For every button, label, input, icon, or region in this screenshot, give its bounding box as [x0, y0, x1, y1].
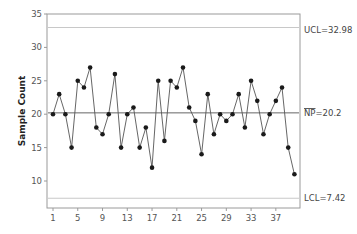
np-label-value: =20.2 [315, 108, 341, 118]
y-axis: 101520253035 [31, 9, 47, 186]
x-tick-label: 29 [221, 213, 232, 223]
np-label-symbol: NP [304, 108, 315, 118]
x-tick-label: 17 [147, 213, 158, 223]
ucl-label: UCL=32.98 [304, 25, 352, 35]
y-axis-label: Sample Count [17, 75, 27, 146]
data-point [181, 65, 186, 70]
x-tick-label: 25 [196, 213, 207, 223]
y-tick-label: 30 [31, 42, 42, 52]
data-point [63, 112, 68, 117]
lcl-label: LCL=7.42 [304, 193, 345, 203]
x-tick-label: 5 [75, 213, 80, 223]
data-point [292, 172, 297, 177]
np-control-chart: 101520253035 15913172125293337 Sample Co… [0, 0, 357, 234]
data-point [243, 125, 248, 130]
x-tick-label: 9 [100, 213, 105, 223]
data-point [193, 119, 198, 124]
x-axis: 15913172125293337 [50, 208, 281, 223]
np-bar-label: NP=20.2 [304, 108, 342, 118]
data-point [255, 99, 260, 104]
data-point [75, 79, 80, 84]
data-point [212, 132, 217, 137]
data-point [236, 92, 241, 97]
data-point [274, 99, 279, 104]
data-point [82, 85, 87, 90]
data-point [218, 112, 223, 117]
y-tick-label: 10 [31, 176, 42, 186]
plot-frame [47, 14, 300, 208]
data-point [57, 92, 62, 97]
x-tick-label: 33 [246, 213, 257, 223]
data-point [175, 85, 180, 90]
data-point [69, 145, 74, 150]
data-point [106, 112, 111, 117]
data-point [261, 132, 266, 137]
data-point [137, 145, 142, 150]
data-point [88, 65, 93, 70]
data-point [125, 112, 130, 117]
x-tick-label: 1 [50, 213, 55, 223]
data-point [286, 145, 291, 150]
data-point [267, 112, 272, 117]
data-point [280, 85, 285, 90]
data-point [94, 125, 99, 130]
data-point [113, 72, 118, 77]
data-point [230, 112, 235, 117]
data-point [156, 79, 161, 84]
data-point [100, 132, 105, 137]
data-point [224, 119, 229, 124]
data-point [144, 125, 149, 130]
data-point [249, 79, 254, 84]
y-tick-label: 20 [31, 109, 42, 119]
data-point [168, 79, 173, 84]
data-point [199, 152, 204, 157]
data-point [162, 139, 167, 144]
data-point [187, 105, 192, 110]
y-tick-label: 15 [31, 143, 42, 153]
y-tick-label: 35 [31, 9, 42, 19]
x-tick-label: 13 [122, 213, 133, 223]
data-point [150, 165, 155, 170]
data-point [51, 112, 56, 117]
data-point [119, 145, 124, 150]
data-point [205, 92, 210, 97]
y-tick-label: 25 [31, 76, 42, 86]
data-point [131, 105, 136, 110]
x-tick-label: 37 [270, 213, 281, 223]
x-tick-label: 21 [171, 213, 182, 223]
